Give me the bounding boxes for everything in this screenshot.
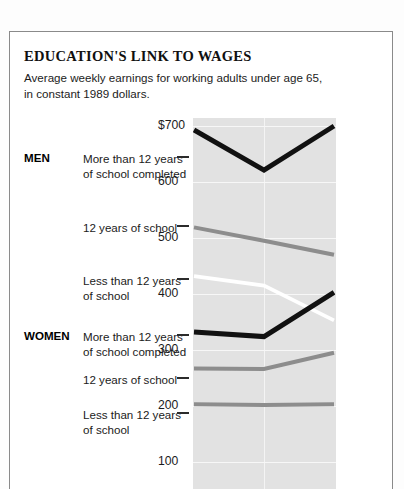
leader-dash-men-less [177,278,189,280]
series-line-1 [194,227,334,254]
y-tick-100: 100 [158,454,178,468]
series-label-men-less-l2: of school [83,288,129,303]
series-label-women-less-l2: of school [83,422,129,437]
series-label-men-more-l1: More than 12 years [83,151,183,166]
leader-dash-women-more [177,334,189,336]
series-line-0 [194,126,334,170]
group-label-men: MEN [24,151,50,164]
group-label-women: WOMEN [24,329,70,342]
series-line-2 [194,276,334,320]
series-line-4 [194,353,334,369]
leader-dash-men-more [177,156,189,158]
plot-area [193,118,336,489]
infographic-card: EDUCATION'S LINK TO WAGES Average weekly… [9,31,393,489]
series-line-3 [194,292,334,336]
y-tick-300: 300 [158,342,178,356]
leader-dash-men-12 [177,225,189,227]
y-tick-600: 600 [158,174,178,188]
series-lines [193,118,336,489]
series-label-women-12: 12 years of school [83,372,177,387]
y-tick-700: $700 [158,118,185,132]
page-title: EDUCATION'S LINK TO WAGES [24,48,252,65]
leader-dash-women-12 [177,377,189,379]
series-line-5 [194,404,334,405]
y-tick-200: 200 [158,398,178,412]
leader-dash-women-less [177,412,189,414]
y-tick-400: 400 [158,286,178,300]
chart-screenshot: EDUCATION'S LINK TO WAGES Average weekly… [0,0,404,489]
subtitle-text: Average weekly earnings for working adul… [24,70,324,101]
y-tick-500: 500 [158,230,178,244]
